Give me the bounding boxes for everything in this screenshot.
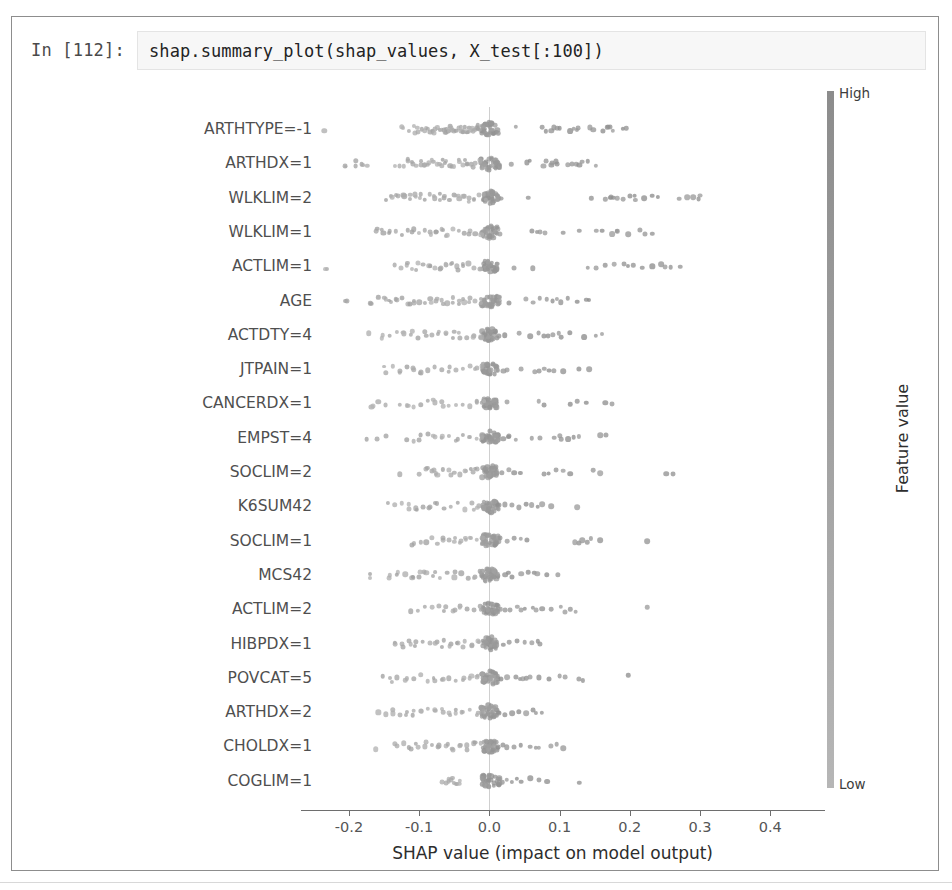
input-prompt-label: In [112]: xyxy=(31,40,125,60)
scatter-point xyxy=(383,402,388,407)
x-axis-tick-label: 0.4 xyxy=(759,819,782,835)
scatter-point xyxy=(589,196,593,200)
scatter-point xyxy=(441,710,446,715)
scatter-point xyxy=(494,540,499,545)
scatter-point xyxy=(482,708,487,713)
scatter-point xyxy=(467,300,471,304)
feature-label: WLKLIM=1 xyxy=(12,223,312,241)
scatter-point xyxy=(631,263,635,267)
scatter-point xyxy=(568,607,572,611)
scatter-point xyxy=(561,230,566,235)
scatter-point xyxy=(418,402,423,407)
scatter-point xyxy=(453,711,458,716)
scatter-point xyxy=(433,641,438,646)
scatter-point xyxy=(528,744,533,749)
scatter-point xyxy=(425,398,429,402)
scatter-point xyxy=(591,468,596,473)
scatter-point xyxy=(376,710,381,715)
scatter-point xyxy=(433,708,437,712)
feature-label: MCS42 xyxy=(12,566,312,584)
scatter-point xyxy=(425,679,430,684)
scatter-point xyxy=(482,399,486,403)
scatter-point xyxy=(469,674,474,679)
scatter-point xyxy=(402,164,406,168)
x-axis-tick-label: 0.1 xyxy=(548,819,571,835)
scatter-point xyxy=(446,369,451,374)
scatter-point xyxy=(511,266,516,271)
scatter-point xyxy=(527,776,532,781)
scatter-point xyxy=(452,607,457,612)
scatter-point xyxy=(548,504,554,510)
scatter-point xyxy=(397,713,402,718)
feature-label: COGLIM=1 xyxy=(12,772,312,790)
scatter-point xyxy=(454,403,458,407)
scatter-point xyxy=(541,163,546,168)
x-axis-tick xyxy=(560,811,561,816)
scatter-point xyxy=(542,402,547,407)
scatter-point xyxy=(561,468,566,473)
scatter-point xyxy=(534,711,538,715)
feature-label: ACTDTY=4 xyxy=(12,326,312,344)
scatter-point xyxy=(527,159,532,164)
scatter-point xyxy=(364,437,369,442)
scatter-point xyxy=(504,744,509,749)
scatter-point xyxy=(441,404,446,409)
scatter-point xyxy=(392,263,397,268)
scatter-point xyxy=(486,567,491,572)
scatter-point xyxy=(487,233,493,239)
scatter-point xyxy=(671,471,676,476)
feature-label: ARTHDX=2 xyxy=(12,703,312,721)
scatter-point xyxy=(394,229,398,233)
scatter-point xyxy=(419,192,424,197)
scatter-point xyxy=(449,713,453,717)
scatter-point xyxy=(615,196,620,201)
scatter-point xyxy=(475,638,480,643)
scatter-point xyxy=(397,403,401,407)
scatter-point xyxy=(446,676,451,681)
scatter-point xyxy=(417,472,422,477)
scatter-point xyxy=(479,335,484,340)
scatter-point xyxy=(427,641,432,646)
scatter-point xyxy=(511,745,516,750)
scatter-point xyxy=(544,159,549,164)
scatter-point xyxy=(529,640,534,645)
scatter-point xyxy=(444,234,448,238)
scatter-point xyxy=(519,537,523,541)
scatter-point xyxy=(645,605,650,610)
scatter-point xyxy=(544,779,550,785)
scatter-point xyxy=(398,368,403,373)
scatter-point xyxy=(591,127,596,132)
scatter-point xyxy=(382,365,386,369)
scatter-point xyxy=(459,710,464,715)
scatter-point xyxy=(408,608,414,614)
scatter-point xyxy=(418,371,422,375)
scatter-point xyxy=(418,433,423,438)
scatter-point xyxy=(447,198,451,202)
scatter-point xyxy=(461,433,465,437)
scatter-point xyxy=(435,542,439,546)
scatter-point xyxy=(400,296,404,300)
scatter-point xyxy=(452,329,457,334)
x-axis-line xyxy=(301,810,825,811)
shap-summary-figure: ARTHTYPE=-1ARTHDX=1WLKLIM=2WLKLIM=1ACTLI… xyxy=(12,75,940,870)
scatter-point xyxy=(574,504,580,510)
code-input-box[interactable]: shap.summary_plot(shap_values, X_test[:1… xyxy=(137,31,926,70)
scatter-point xyxy=(559,335,564,340)
scatter-point xyxy=(429,605,434,610)
scatter-point xyxy=(441,467,445,471)
scatter-point xyxy=(425,432,430,437)
scatter-point xyxy=(423,301,427,305)
scatter-point xyxy=(577,229,581,233)
feature-label: JTPAIN=1 xyxy=(12,360,312,378)
scatter-point xyxy=(414,508,418,512)
scatter-point xyxy=(501,643,505,647)
feature-label: WLKLIM=2 xyxy=(12,189,312,207)
x-axis-tick xyxy=(419,811,420,816)
scatter-point xyxy=(558,300,563,305)
scatter-point xyxy=(353,158,358,163)
scatter-point xyxy=(403,678,407,682)
scatter-point xyxy=(567,471,573,477)
scatter-point xyxy=(486,774,491,779)
scatter-point xyxy=(597,537,603,543)
scatter-point xyxy=(437,192,441,196)
